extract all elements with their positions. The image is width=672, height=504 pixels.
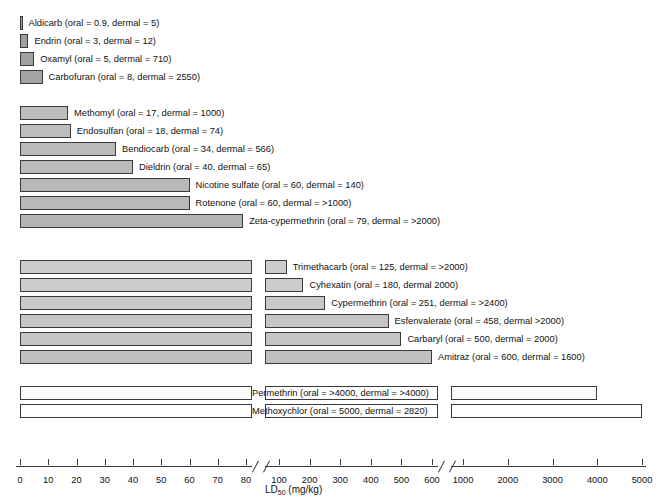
axis-tick-80 (246, 459, 247, 465)
bar-cypermethrin-segment-2 (265, 296, 325, 310)
bar-amitraz-segment-2 (265, 350, 432, 364)
bar-label-methoxychlor: Methoxychlor (oral = 5000, dermal = 2820… (252, 404, 428, 418)
axis-tick-label-40: 40 (128, 475, 138, 485)
axis-tick-70 (218, 459, 219, 465)
bar-label-amitraz: Amitraz (oral = 600, dermal = 1600) (438, 350, 585, 364)
bar-cyhexatin-segment-1 (20, 278, 252, 292)
bar-cypermethrin-segment-1 (20, 296, 252, 310)
bar-permethrin-segment-3 (451, 386, 597, 400)
axis-tick-500 (401, 459, 402, 465)
bar-label-cypermethrin: Cypermethrin (oral = 251, dermal = >2400… (331, 296, 507, 310)
bar-endosulfan (20, 124, 71, 138)
axis-tick-2000 (508, 459, 509, 465)
bar-permethrin-segment-1 (20, 386, 252, 400)
axis-tick-20 (77, 459, 78, 465)
bar-trimethacarb-segment-1 (20, 260, 252, 274)
bar-esfenvalerate-segment-2 (265, 314, 389, 328)
axis-tick-30 (105, 459, 106, 465)
bar-label-nicotine-sulfate: Nicotine sulfate (oral = 60, dermal = 14… (196, 178, 364, 192)
axis-tick-label-5000: 5000 (632, 475, 653, 485)
axis-tick-label-500: 500 (394, 475, 410, 485)
bar-methoxychlor-segment-1 (20, 404, 252, 418)
bar-label-endosulfan: Endosulfan (oral = 18, dermal = 74) (77, 124, 223, 138)
bar-carbaryl-segment-2 (265, 332, 401, 346)
axis-tick-label-30: 30 (100, 475, 110, 485)
axis-tick-label-0: 0 (17, 475, 22, 485)
axis-tick-50 (161, 459, 162, 465)
axis-tick-3000 (553, 459, 554, 465)
axis-line (265, 466, 438, 467)
bar-label-dieldrin: Dieldrin (oral = 40, dermal = 65) (139, 160, 270, 174)
axis-tick-label-400: 400 (363, 475, 379, 485)
axis-tick-10 (48, 459, 49, 465)
axis-tick-label-300: 300 (332, 475, 348, 485)
axis-tick-600 (432, 459, 433, 465)
bar-methoxychlor-segment-3 (451, 404, 642, 418)
axis-tick-300 (340, 459, 341, 465)
bar-label-oxamyl: Oxamyl (oral = 5, dermal = 710) (40, 52, 171, 66)
axis-tick-label-80: 80 (241, 475, 251, 485)
axis-tick-label-20: 20 (71, 475, 81, 485)
bar-oxamyl (20, 52, 34, 66)
axis-tick-label-70: 70 (213, 475, 223, 485)
bar-label-endrin: Endrin (oral = 3, dermal = 12) (34, 34, 155, 48)
axis-tick-4000 (597, 459, 598, 465)
axis-tick-label-10: 10 (43, 475, 53, 485)
axis-tick-label-50: 50 (156, 475, 166, 485)
bar-aldicarb (20, 16, 23, 30)
bar-label-cyhexatin: Cyhexatin (oral = 180, dermal 2000) (309, 278, 458, 292)
axis-tick-5000 (642, 459, 643, 465)
axis-title-units: (mg/kg) (286, 484, 323, 495)
axis-tick-label-60: 60 (184, 475, 194, 485)
bar-nicotine-sulfate (20, 178, 190, 192)
axis-tick-label-3000: 3000 (542, 475, 563, 485)
bar-label-zeta-cypermethrin: Zeta-cypermethrin (oral = 79, dermal = >… (249, 214, 440, 228)
axis-tick-40 (133, 459, 134, 465)
bar-label-permethrin: Permethrin (oral = >4000, dermal = >4000… (252, 386, 429, 400)
bar-esfenvalerate-segment-1 (20, 314, 252, 328)
axis-tick-60 (190, 459, 191, 465)
axis-tick-200 (310, 459, 311, 465)
bar-rotenone (20, 196, 190, 210)
bar-label-rotenone: Rotenone (oral = 60, dermal = >1000) (196, 196, 352, 210)
axis-tick-400 (371, 459, 372, 465)
bar-dieldrin (20, 160, 133, 174)
axis-tick-1000 (463, 459, 464, 465)
axis-break-mark (252, 461, 259, 473)
axis-tick-0 (20, 459, 21, 465)
axis-tick-label-600: 600 (424, 475, 440, 485)
bar-carbofuran (20, 70, 43, 84)
axis-break-mark (438, 461, 445, 473)
bar-endrin (20, 34, 28, 48)
bar-trimethacarb-segment-2 (265, 260, 287, 274)
bar-label-carbofuran: Carbofuran (oral = 8, dermal = 2550) (49, 70, 200, 84)
axis-tick-100 (279, 459, 280, 465)
bar-cyhexatin-segment-2 (265, 278, 303, 292)
bar-label-trimethacarb: Trimethacarb (oral = 125, dermal = >2000… (293, 260, 468, 274)
bar-amitraz-segment-1 (20, 350, 252, 364)
bar-carbaryl-segment-1 (20, 332, 252, 346)
bar-label-methomyl: Methomyl (oral = 17, dermal = 1000) (74, 106, 224, 120)
axis-line (451, 466, 646, 467)
axis-title-main: LD (265, 484, 278, 495)
axis-tick-label-1000: 1000 (453, 475, 474, 485)
bar-zeta-cypermethrin (20, 214, 243, 228)
axis-title-subscript: 50 (278, 489, 286, 496)
bar-label-bendiocarb: Bendiocarb (oral = 34, dermal = 566) (122, 142, 274, 156)
ld50-bar-chart: Aldicarb (oral = 0.9, dermal = 5)Endrin … (0, 0, 672, 504)
bar-label-carbaryl: Carbaryl (oral = 500, dermal = 2000) (407, 332, 557, 346)
axis-line (16, 466, 252, 467)
bar-methomyl (20, 106, 68, 120)
x-axis-title: LD50 (mg/kg) (265, 484, 322, 496)
axis-tick-label-2000: 2000 (497, 475, 518, 485)
bar-label-esfenvalerate: Esfenvalerate (oral = 458, dermal >2000) (395, 314, 565, 328)
axis-tick-label-4000: 4000 (587, 475, 608, 485)
bar-bendiocarb (20, 142, 116, 156)
bar-label-aldicarb: Aldicarb (oral = 0.9, dermal = 5) (29, 16, 160, 30)
